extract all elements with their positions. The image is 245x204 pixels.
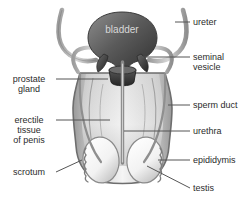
label-erectile-tissue-line1: erectile xyxy=(4,115,54,126)
bladder-label: bladder xyxy=(105,24,139,35)
label-testis: testis xyxy=(193,183,214,194)
label-seminal-vesicle-line2: vesicle xyxy=(193,62,221,73)
label-epididymis: epididymis xyxy=(193,155,236,166)
label-prostate-gland-line2: gland xyxy=(4,84,54,95)
label-prostate-gland-line1: prostate xyxy=(4,74,54,85)
label-ureter: ureter xyxy=(193,17,217,28)
label-seminal-vesicle-line1: seminal xyxy=(193,52,224,63)
label-urethra: urethra xyxy=(193,126,222,137)
label-sperm-duct: sperm duct xyxy=(193,100,238,111)
label-erectile-tissue-line2: tissue xyxy=(4,125,54,136)
label-erectile-tissue-line3: of penis xyxy=(4,135,54,146)
label-scrotum: scrotum xyxy=(4,167,54,178)
